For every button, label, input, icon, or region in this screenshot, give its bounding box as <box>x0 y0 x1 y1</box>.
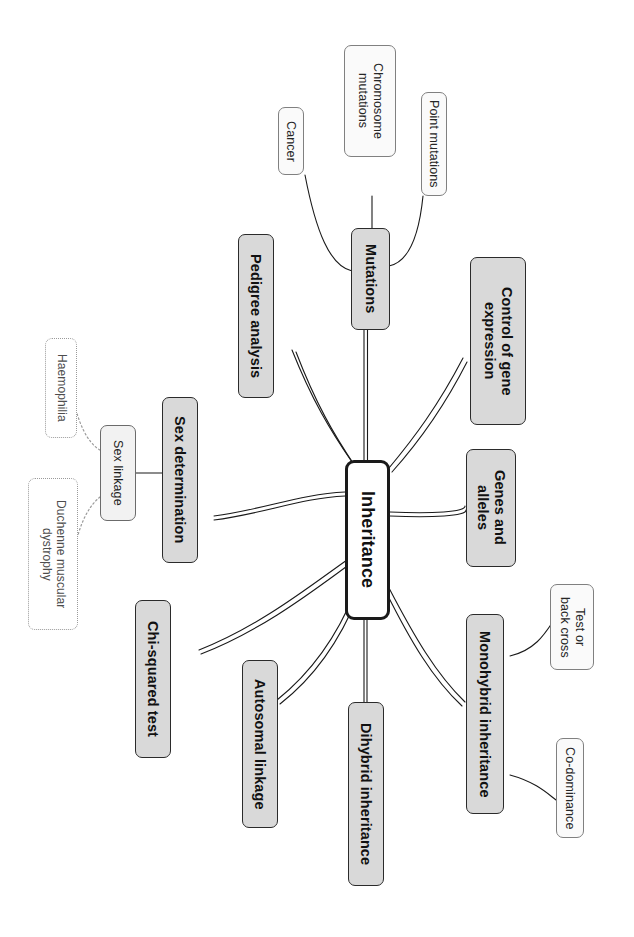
connector-root-sexdet <box>214 492 345 520</box>
node-mutations[interactable]: Mutations <box>351 228 390 330</box>
connector-sexlinkage-haemophilia <box>74 402 100 450</box>
connector-root-dihybrid <box>364 620 367 702</box>
node-autosomal-linkage[interactable]: Autosomal linkage <box>242 660 278 828</box>
node-point-mutations[interactable]: Point mutations <box>421 92 447 196</box>
connector-root-genes <box>390 506 466 517</box>
node-test-or-back-cross[interactable]: Test or back cross <box>550 584 594 670</box>
connector-root-chisq <box>199 560 350 654</box>
node-cancer[interactable]: Cancer <box>278 107 304 175</box>
node-sex-linkage[interactable]: Sex linkage <box>100 425 136 521</box>
connector-root-mutations <box>364 330 368 460</box>
node-co-dominance[interactable]: Co-dominance <box>556 738 584 838</box>
node-chromosome-mutations[interactable]: Chromosome mutations <box>344 45 396 157</box>
connector-monohybrid-testcross <box>510 620 554 656</box>
connector-layer <box>0 0 634 937</box>
node-pedigree-analysis[interactable]: Pedigree analysis <box>238 234 274 398</box>
connector-root-pedigree <box>292 350 355 466</box>
node-genes-and-alleles[interactable]: Genes and alleles <box>466 449 516 567</box>
node-control-of-gene-expression[interactable]: Control of gene expression <box>470 257 526 425</box>
node-monohybrid-inheritance[interactable]: Monohybrid inheritance <box>466 614 504 814</box>
connector-mutations-cancer <box>305 175 352 271</box>
node-chi-squared-test[interactable]: Chi-squared test <box>135 600 171 758</box>
connector-root-monohybrid <box>386 588 465 706</box>
node-duchenne-muscular-dystrophy[interactable]: Duchenne muscular dystrophy <box>28 478 78 630</box>
node-sex-determination[interactable]: Sex determination <box>162 397 198 563</box>
connector-mutations-point <box>389 196 423 266</box>
connector-monohybrid-codominance <box>510 775 556 800</box>
node-haemophilia[interactable]: Haemophilia <box>45 338 77 438</box>
mindmap-canvas: Inheritance Mutations Chromosome mutatio… <box>0 0 634 937</box>
connector-root-control-gene <box>389 358 467 472</box>
node-dihybrid-inheritance[interactable]: Dihybrid inheritance <box>348 702 384 886</box>
node-inheritance[interactable]: Inheritance <box>345 460 390 620</box>
